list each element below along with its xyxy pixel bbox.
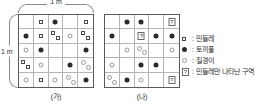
legend-open-circle-icon	[182, 58, 187, 63]
symbol-plantain-open-circle	[66, 75, 71, 80]
symbol-dandelion-square	[26, 65, 30, 69]
symbol-clover-filled-circle	[139, 62, 144, 67]
quadrat-cell	[34, 44, 49, 58]
quadrat-cell	[120, 58, 135, 72]
quadrat-cell: ?	[164, 73, 179, 87]
symbol-plantain-open-circle	[23, 77, 28, 82]
legend-label: 토끼풀	[196, 45, 214, 54]
quadrat-cell: ?	[164, 15, 179, 29]
symbol-clover-filled-circle	[68, 62, 73, 67]
quadrat-cell	[120, 29, 135, 43]
quadrat-cell	[34, 15, 49, 29]
quadrat-cell	[49, 58, 64, 72]
left-dimension: 1 m	[1, 14, 18, 88]
symbol-plantain-open-circle	[68, 34, 73, 39]
symbol-plantain-open-circle	[112, 80, 117, 85]
quadrat-cell	[135, 15, 150, 29]
quadrat-cell	[149, 58, 164, 72]
symbol-clover-filled-circle	[83, 48, 88, 53]
caption-plot-a: (가)	[18, 92, 94, 101]
quadrat-cell: ?	[135, 29, 150, 43]
symbol-dandelion-square	[39, 78, 43, 82]
quadrat-grid-b: ???	[104, 14, 180, 88]
legend-item: :질경이	[182, 55, 260, 66]
symbol-clover-filled-circle	[169, 34, 174, 39]
quadrat-cell	[78, 73, 93, 87]
quadrat-cell	[49, 15, 64, 29]
legend-colon: :	[192, 56, 194, 65]
quadrat-cell	[19, 15, 34, 29]
quadrat-cell	[105, 15, 120, 29]
quadrat-cell	[49, 73, 64, 87]
symbol-dandelion-square	[84, 20, 88, 24]
quadrat-cell	[149, 29, 164, 43]
quadrat-cell	[19, 73, 34, 87]
left-dimension-label: 1 m	[0, 46, 14, 57]
legend-open-square-icon	[182, 37, 186, 41]
quadrat-cell	[105, 29, 120, 43]
legend-colon: :	[192, 45, 194, 54]
quadrat-cell	[120, 44, 135, 58]
legend-label: 민들레	[196, 34, 214, 43]
symbol-plantain-open-circle	[107, 75, 112, 80]
symbol-plantain-open-circle	[38, 62, 43, 67]
legend-colon: :	[192, 34, 194, 43]
symbol-clover-filled-circle	[154, 62, 159, 67]
quadrat-cell	[78, 15, 93, 29]
symbol-plantain-open-circle	[23, 48, 28, 53]
legend-label: 민들레만 나타난 구역	[196, 67, 254, 76]
quadrat-cell	[49, 29, 64, 43]
symbol-question-box: ?	[138, 32, 145, 40]
symbol-dandelion-square	[86, 36, 90, 40]
symbol-clover-filled-circle	[23, 34, 28, 39]
symbol-question-box: ?	[168, 18, 175, 26]
symbol-clover-filled-circle	[109, 34, 114, 39]
quadrat-cell	[135, 58, 150, 72]
symbol-dandelion-square	[51, 31, 55, 35]
quadrat-cell	[34, 29, 49, 43]
symbol-dandelion-square	[21, 60, 25, 64]
legend: :민들레:토끼풀:질경이?:민들레만 나타난 구역	[182, 33, 260, 77]
quadrat-cell	[164, 29, 179, 43]
legend-label: 질경이	[196, 56, 214, 65]
symbol-plantain-open-circle	[109, 62, 114, 67]
top-dimension: 1 m	[18, 0, 94, 13]
symbol-clover-filled-circle	[154, 34, 159, 39]
symbol-plantain-open-circle	[137, 46, 142, 51]
quadrat-cell	[78, 58, 93, 72]
quadrat-cell	[149, 44, 164, 58]
quadrat-cell	[19, 44, 34, 58]
symbol-dandelion-square	[39, 34, 43, 38]
quadrat-cell	[78, 44, 93, 58]
quadrat-cell	[149, 73, 164, 87]
quadrat-cell	[63, 44, 78, 58]
quadrat-cell	[105, 58, 120, 72]
legend-filled-circle-icon	[182, 47, 187, 52]
legend-item: :토끼풀	[182, 44, 260, 55]
quadrat-cell	[105, 44, 120, 58]
quadrat-cell	[63, 29, 78, 43]
quadrat-cell	[63, 58, 78, 72]
quadrat-cell	[164, 44, 179, 58]
symbol-clover-filled-circle	[124, 77, 129, 82]
quadrat-cell	[120, 73, 135, 87]
symbol-clover-filled-circle	[139, 19, 144, 24]
quadrat-cell	[34, 58, 49, 72]
quadrat-cell	[105, 73, 120, 87]
symbol-dandelion-square	[39, 20, 43, 24]
quadrat-cell	[78, 29, 93, 43]
quadrat-cell	[49, 44, 64, 58]
symbol-plantain-open-circle	[139, 77, 144, 82]
legend-item: :민들레	[182, 33, 260, 44]
quadrat-grid-a	[18, 14, 94, 88]
quadrat-cell	[63, 15, 78, 29]
symbol-clover-filled-circle	[83, 77, 88, 82]
symbol-clover-filled-circle	[38, 48, 43, 53]
symbol-plantain-open-circle	[81, 60, 86, 65]
symbol-dandelion-square	[56, 36, 60, 40]
quadrat-cell	[149, 15, 164, 29]
symbol-plantain-open-circle	[169, 48, 174, 53]
legend-item: ?:민들레만 나타난 구역	[182, 66, 260, 77]
symbol-dandelion-square	[81, 31, 85, 35]
caption-plot-b: (나)	[104, 92, 180, 101]
